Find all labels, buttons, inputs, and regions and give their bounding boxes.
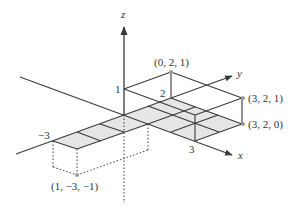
y-axis-label: y	[236, 67, 242, 79]
tick-x-3: 3	[189, 143, 195, 155]
tick-y-2: 2	[160, 87, 166, 99]
point-1-neg3-neg1	[75, 173, 79, 177]
z-axis-label: z	[120, 8, 126, 20]
label-point-3-2-1: (3, 2, 1)	[248, 92, 283, 105]
point-3-2-0	[241, 122, 245, 126]
label-point-1-neg3-neg1: (1, −3, −1)	[51, 180, 99, 193]
coordinate-diagram: z y x 1 2 3 −3 (0, 2, 1) (3, 2, 1) (3, 2…	[0, 0, 295, 215]
label-point-0-2-1: (0, 2, 1)	[154, 56, 189, 69]
diagram-svg: z y x 1 2 3 −3 (0, 2, 1) (3, 2, 1) (3, 2…	[0, 0, 295, 215]
shaded-strip-negative-y	[53, 115, 148, 149]
label-point-3-2-0: (3, 2, 0)	[248, 118, 283, 131]
tick-y-neg3: −3	[38, 129, 50, 141]
tick-z-1: 1	[115, 83, 121, 95]
point-0-2-1	[169, 70, 173, 74]
point-3-2-1	[241, 96, 245, 100]
x-axis-label: x	[237, 149, 243, 161]
